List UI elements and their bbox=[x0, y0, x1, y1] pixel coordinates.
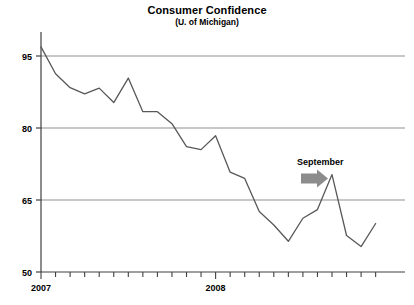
annotation-label-september: September bbox=[297, 157, 344, 167]
y-tick-label-80: 80 bbox=[22, 124, 32, 134]
data-series-line bbox=[41, 47, 376, 247]
y-tick-label-50: 50 bbox=[22, 268, 32, 278]
chart-container: Consumer Confidence (U. of Michigan) 506… bbox=[0, 0, 414, 305]
right-arrow-icon bbox=[301, 170, 328, 188]
y-tick-label-95: 95 bbox=[22, 52, 32, 62]
x-tick-label-2008: 2008 bbox=[206, 283, 226, 293]
line-chart-plot: 50658095 20072008 September bbox=[0, 0, 414, 305]
gridline-group bbox=[41, 56, 405, 200]
x-axis-tick-group: 20072008 bbox=[31, 272, 376, 293]
x-tick-label-2007: 2007 bbox=[31, 283, 51, 293]
y-tick-label-65: 65 bbox=[22, 196, 32, 206]
y-axis-tick-group: 50658095 bbox=[22, 52, 41, 278]
annotation-group: September bbox=[297, 157, 344, 188]
